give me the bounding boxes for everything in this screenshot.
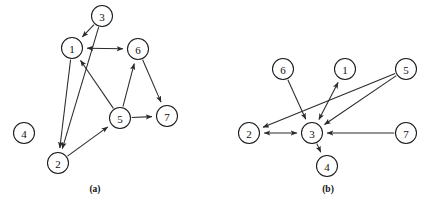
edges-layer — [60, 25, 397, 157]
node-label: 5 — [403, 64, 409, 76]
edge-a-5-1 — [81, 60, 114, 108]
node-label: 1 — [69, 43, 75, 55]
panel-caption-b: (b) — [322, 184, 334, 195]
node-a-7[interactable]: 7 — [157, 106, 178, 127]
node-a-3[interactable]: 3 — [92, 6, 113, 27]
node-label: 7 — [403, 128, 409, 140]
node-b-2[interactable]: 2 — [239, 123, 260, 144]
edge-a-5-6 — [123, 64, 134, 107]
node-a-1[interactable]: 1 — [62, 38, 83, 59]
edge-a-2-5 — [67, 127, 107, 156]
edge-a-1-6 — [87, 48, 123, 49]
node-label: 2 — [55, 158, 61, 170]
node-b-1[interactable]: 1 — [335, 59, 356, 80]
node-b-5[interactable]: 5 — [396, 59, 417, 80]
node-a-6[interactable]: 6 — [128, 39, 149, 60]
node-a-2[interactable]: 2 — [48, 153, 69, 174]
node-label: 3 — [99, 11, 105, 23]
node-label: 4 — [21, 128, 27, 140]
node-label: 6 — [280, 64, 286, 76]
node-b-4[interactable]: 4 — [317, 156, 338, 177]
node-b-6[interactable]: 6 — [273, 59, 294, 80]
node-label: 3 — [309, 128, 315, 140]
node-label: 1 — [342, 64, 348, 76]
edge-a-5-7 — [132, 117, 152, 118]
captions-layer: (a)(b) — [89, 184, 333, 195]
node-label: 5 — [117, 113, 123, 125]
edge-b-5-3 — [324, 76, 396, 125]
node-a-4[interactable]: 4 — [14, 123, 35, 144]
edge-b-1-3 — [319, 82, 338, 119]
node-label: 2 — [246, 128, 252, 140]
node-label: 7 — [164, 111, 170, 123]
edge-a-1-2 — [60, 60, 71, 148]
panel-caption-a: (a) — [89, 184, 100, 195]
node-label: 6 — [135, 44, 141, 56]
edge-b-3-4 — [317, 144, 321, 153]
node-a-5[interactable]: 5 — [110, 108, 131, 129]
node-b-7[interactable]: 7 — [396, 123, 417, 144]
node-b-3[interactable]: 3 — [302, 123, 323, 144]
edge-a-6-7 — [143, 60, 161, 102]
graph-figure: 12345671234567 (a)(b) — [0, 0, 431, 211]
node-label: 4 — [324, 161, 330, 173]
edge-a-3-1 — [82, 25, 94, 37]
